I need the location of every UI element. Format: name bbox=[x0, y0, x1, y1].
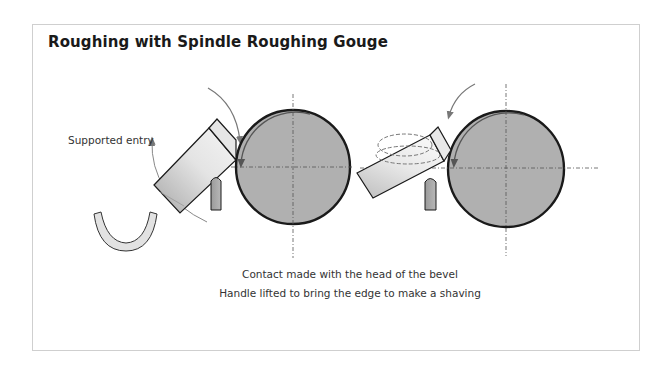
caption-line-1: Contact made with the head of the bevel bbox=[200, 268, 500, 280]
caption-line-2: Handle lifted to bring the edge to make … bbox=[200, 287, 500, 299]
tool-rest-right bbox=[425, 179, 436, 211]
entry-arrow-icon bbox=[449, 84, 475, 116]
roughing-diagram bbox=[0, 0, 667, 375]
supported-entry-label: Supported entry bbox=[68, 134, 154, 146]
right-diagram bbox=[357, 84, 600, 256]
left-diagram bbox=[94, 88, 352, 258]
u-shaped-rest bbox=[94, 212, 157, 251]
tool-rest-left bbox=[211, 178, 221, 211]
